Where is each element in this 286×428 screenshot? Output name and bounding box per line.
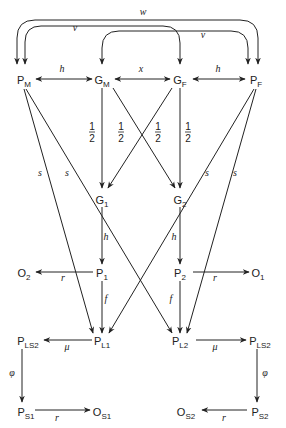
edge-PF-PL2 bbox=[187, 89, 256, 333]
label-w-arc: w bbox=[140, 6, 147, 17]
edge-PM-PL1 bbox=[24, 89, 93, 333]
node-P1: P1 bbox=[96, 267, 108, 282]
node-O1: O1 bbox=[251, 267, 265, 282]
node-PS2: PS2 bbox=[251, 406, 269, 421]
label-P2-O1: r bbox=[213, 272, 217, 283]
label-GM-G2: 12 bbox=[118, 121, 124, 144]
label-PM-PL1: s bbox=[38, 167, 42, 178]
arcs bbox=[17, 20, 258, 64]
svg-text:2: 2 bbox=[185, 133, 191, 144]
label-G2-P2: h bbox=[172, 231, 177, 242]
label-GM-GF: x bbox=[138, 63, 144, 74]
gamete-edges bbox=[102, 88, 180, 188]
label-v-arc-left: v bbox=[73, 22, 78, 33]
edge-labels: wvvhxh12121212sssshhrrffμμφφrr bbox=[9, 6, 268, 423]
label-GF-PF: h bbox=[216, 63, 221, 74]
node-OS2: OS2 bbox=[177, 406, 196, 421]
node-GM: GM bbox=[94, 74, 110, 89]
label-PF-PL2: s bbox=[233, 167, 237, 178]
label-v-arc-right: v bbox=[201, 29, 206, 40]
node-PLS2b: PLS2 bbox=[249, 335, 271, 350]
node-O2: O2 bbox=[17, 267, 31, 282]
label-GF-G2: 12 bbox=[185, 121, 191, 144]
label-PM-GM: h bbox=[60, 63, 65, 74]
edge-PF-PL1 bbox=[109, 89, 254, 333]
svg-text:1: 1 bbox=[155, 121, 161, 132]
label-PM-PL2: s bbox=[65, 167, 69, 178]
label-PL1-PLS2a: μ bbox=[63, 341, 69, 352]
node-P2: P2 bbox=[174, 267, 186, 282]
node-PLS2a: PLS2 bbox=[17, 335, 39, 350]
svg-text:2: 2 bbox=[118, 133, 124, 144]
node-G2: G2 bbox=[173, 194, 187, 209]
node-OS1: OS1 bbox=[93, 406, 112, 421]
node-PL2: PL2 bbox=[172, 335, 189, 350]
edge-w-arc bbox=[17, 20, 258, 64]
label-P1-O2: r bbox=[61, 272, 65, 283]
label-PF-PL1: s bbox=[205, 167, 209, 178]
svg-text:1: 1 bbox=[89, 121, 95, 132]
node-GF: GF bbox=[173, 74, 187, 89]
s-edges bbox=[24, 89, 256, 333]
label-G1-P1: h bbox=[104, 231, 109, 242]
label-P2-PL2: f bbox=[170, 293, 174, 304]
node-PF: PF bbox=[250, 74, 262, 89]
label-PLS2b-PS2: φ bbox=[262, 367, 268, 378]
svg-text:1: 1 bbox=[185, 121, 191, 132]
node-G1: G1 bbox=[95, 194, 109, 209]
svg-text:2: 2 bbox=[89, 133, 95, 144]
edge-v-arc-right bbox=[102, 31, 248, 64]
label-PS2-OS2: r bbox=[222, 412, 226, 423]
svg-text:1: 1 bbox=[118, 121, 124, 132]
bottom-edges bbox=[22, 340, 257, 410]
label-P1-PL1: f bbox=[105, 293, 109, 304]
node-PM: PM bbox=[17, 74, 31, 89]
inheritance-pathway-diagram: PMGMGFPFG1G2O2P1P2O1PLS2PL1PL2PLS2PS1OS1… bbox=[0, 0, 286, 428]
label-PL2-PLS2b: μ bbox=[211, 341, 217, 352]
node-PL1: PL1 bbox=[94, 335, 111, 350]
svg-text:2: 2 bbox=[155, 133, 161, 144]
label-PLS2a-PS1: φ bbox=[9, 367, 15, 378]
edge-PM-PL2 bbox=[26, 89, 172, 333]
label-PS1-OS1: r bbox=[55, 412, 59, 423]
label-GM-G1: 12 bbox=[89, 121, 95, 144]
nodes: PMGMGFPFG1G2O2P1P2O1PLS2PL1PL2PLS2PS1OS1… bbox=[17, 74, 271, 421]
label-GF-G1: 12 bbox=[155, 121, 161, 144]
node-PS1: PS1 bbox=[17, 406, 35, 421]
